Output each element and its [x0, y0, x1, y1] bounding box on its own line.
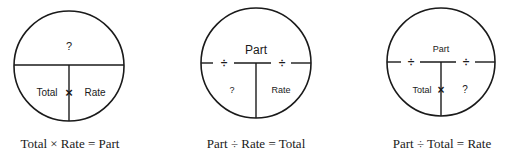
diagram-total: ÷ ÷ Part ? Rate Part ÷ Rate = Total — [201, 8, 311, 151]
diagram-rate: ÷ ÷ Part Total × ? Part ÷ Total = Rate — [387, 8, 495, 151]
divide-icon: ÷ — [463, 55, 470, 69]
top-label: Part — [433, 44, 450, 54]
divide-icon: ÷ — [221, 56, 228, 70]
formula-caption: Part ÷ Total = Rate — [393, 136, 492, 151]
formula-caption: Total × Rate = Part — [21, 136, 120, 151]
multiply-icon: × — [65, 85, 73, 100]
multiply-icon: × — [437, 83, 444, 97]
right-label: Rate — [271, 85, 290, 95]
divide-icon: ÷ — [279, 56, 286, 70]
right-label: ? — [462, 84, 468, 95]
formula-caption: Part ÷ Rate = Total — [207, 136, 306, 151]
top-label: ? — [66, 40, 72, 52]
divide-icon: ÷ — [408, 55, 415, 69]
top-label: Part — [245, 43, 268, 57]
diagram-part: ? Total × Rate Total × Rate = Part — [14, 11, 124, 151]
left-label: ? — [229, 85, 234, 95]
left-label: Total — [412, 85, 431, 95]
left-label: Total — [36, 87, 57, 98]
percent-circle-diagrams: ? Total × Rate Total × Rate = Part ÷ ÷ P… — [0, 0, 513, 155]
right-label: Rate — [84, 87, 106, 98]
